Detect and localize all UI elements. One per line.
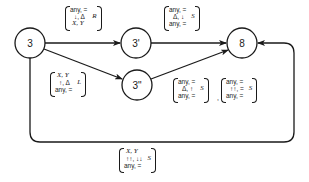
node-3-double-prime: 3" (122, 70, 152, 100)
label-row: any, = (226, 92, 244, 99)
label-row: any, = (169, 20, 186, 27)
svg-text:3': 3' (132, 38, 140, 49)
label-separator: , (217, 94, 219, 101)
edge-3dprime-to-8 (151, 50, 228, 79)
label-row: any, = (169, 6, 186, 13)
edge-label-3prime-to-8: any, = Δ, ↓ any, = S (169, 6, 195, 27)
label-row: X, Y (55, 72, 72, 79)
label-row: X, Y (124, 148, 143, 155)
label-row: any, = (55, 86, 72, 93)
label-row: ↑↑, = (226, 85, 244, 92)
label-row: any, = (124, 162, 143, 169)
label-row: any, = (178, 78, 195, 85)
edge-label-3dprime-to-8-b: any, = ↑↑, = any, = S (226, 78, 252, 99)
label-row: any, = (70, 6, 87, 13)
label-row: any, = (178, 92, 195, 99)
edge-label-3-to-3prime: any, = ↓, Δ X, Y R (70, 6, 97, 27)
node-8: 8 (227, 28, 257, 58)
label-row: any, = (226, 78, 244, 85)
label-row: Δ, ↓ (169, 13, 186, 20)
svg-text:8: 8 (239, 38, 245, 49)
node-3: 3 (15, 28, 45, 58)
label-row: X, Y (70, 20, 87, 27)
edge-label-3-to-3dprime: X, Y ↑, Δ any, = L (55, 72, 81, 93)
svg-text:3": 3" (132, 80, 142, 91)
label-row: ↑↑, ↓↓ (124, 155, 143, 162)
label-row: ↑, Δ (55, 79, 72, 86)
edge-label-3dprime-to-8-a: any, = Δ, ↑ any, = S (178, 78, 204, 99)
label-row: Δ, ↑ (178, 85, 195, 92)
svg-text:3: 3 (27, 38, 33, 49)
edge-label-3-loop-to-8: X, Y ↑↑, ↓↓ any, = S (124, 148, 151, 169)
node-3-prime: 3' (121, 28, 151, 58)
label-side: R (92, 13, 96, 20)
